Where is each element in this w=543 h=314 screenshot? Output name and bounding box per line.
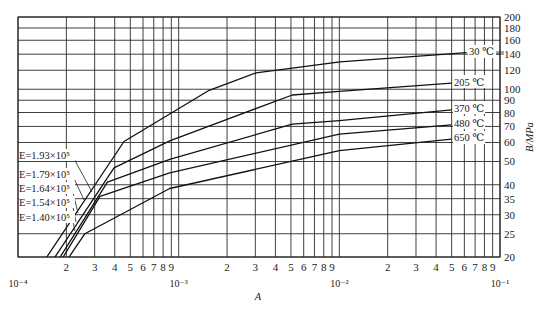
- x-minor-tick-label: 5: [128, 261, 134, 273]
- y-tick-label: 25: [504, 228, 516, 240]
- x-minor-tick-label: 6: [140, 261, 146, 273]
- creep-chart: 30 ℃ 205 ℃ 370 ℃ 480 ℃ 650 ℃ E=1.93×10⁵ …: [0, 0, 543, 314]
- x-minor-tick-label: 2: [224, 261, 230, 273]
- temp-label-650: 650 ℃: [454, 132, 484, 143]
- y-tick-label: 80: [504, 107, 516, 119]
- modulus-label-370: E=1.64×10⁵: [19, 183, 70, 194]
- temp-label-205: 205 ℃: [454, 77, 484, 88]
- x-minor-tick-label: 7: [312, 261, 318, 273]
- x-minor-tick-label: 6: [301, 261, 307, 273]
- x-minor-tick-label: 6: [462, 261, 468, 273]
- y-tick-label: 60: [504, 136, 516, 148]
- y-tick-label: 90: [504, 94, 516, 106]
- plot-grid: [18, 17, 500, 257]
- y-tick-label: 70: [504, 120, 516, 132]
- y-tick-labels: 20018016014012010090807060504035302520: [504, 11, 521, 263]
- y-tick-label: 40: [504, 179, 516, 191]
- y-tick-label: 120: [504, 64, 521, 76]
- x-minor-tick-label: 9: [329, 261, 335, 273]
- modulus-label-650: E=1.40×10⁵: [19, 212, 70, 223]
- modulus-label-30: E=1.93×10⁵: [19, 150, 70, 161]
- x-minor-tick-label: 4: [273, 261, 279, 273]
- x-minor-tick-label: 7: [472, 261, 478, 273]
- x-decade-label: 10⁻⁴: [9, 278, 28, 289]
- x-minor-tick-label: 3: [413, 261, 419, 273]
- x-minor-tick-label: 8: [321, 261, 327, 273]
- x-minor-tick-label: 5: [288, 261, 294, 273]
- x-decade-label: 10⁻³: [170, 278, 188, 289]
- y-tick-label: 30: [504, 209, 516, 221]
- x-minor-tick-label: 3: [253, 261, 259, 273]
- x-minor-tick-label: 8: [482, 261, 488, 273]
- x-decade-label: 10⁻¹: [491, 278, 509, 289]
- x-minor-tick-label: 8: [160, 261, 166, 273]
- y-tick-label: 140: [504, 48, 521, 60]
- curve-30c: [47, 53, 467, 257]
- x-tick-labels: 23456789234567892345678910⁻⁴10⁻³10⁻²10⁻¹: [9, 261, 510, 289]
- x-axis-title: A: [254, 291, 262, 302]
- x-decade-label: 10⁻²: [330, 278, 348, 289]
- y-tick-label: 35: [504, 193, 516, 205]
- x-minor-tick-label: 2: [385, 261, 391, 273]
- x-minor-tick-label: 3: [92, 261, 98, 273]
- x-minor-tick-label: 4: [112, 261, 118, 273]
- y-tick-label: 20: [504, 251, 516, 263]
- x-minor-tick-label: 7: [151, 261, 157, 273]
- modulus-label-205: E=1.79×10⁵: [19, 169, 70, 180]
- curve-650c: [69, 139, 452, 257]
- curves-group: [47, 53, 467, 257]
- temp-label-370: 370 ℃: [454, 103, 484, 114]
- temperature-labels: 30 ℃ 205 ℃ 370 ℃ 480 ℃ 650 ℃: [453, 45, 504, 144]
- x-minor-tick-label: 4: [433, 261, 439, 273]
- curve-370c: [60, 110, 451, 257]
- y-tick-label: 50: [504, 155, 516, 167]
- x-minor-tick-label: 9: [169, 261, 175, 273]
- y-tick-label: 180: [504, 22, 521, 34]
- temp-label-480: 480 ℃: [454, 118, 484, 129]
- x-minor-tick-label: 2: [64, 261, 70, 273]
- modulus-label-480: E=1.54×10⁵: [19, 197, 70, 208]
- y-tick-label: 160: [504, 34, 521, 46]
- x-minor-tick-label: 5: [449, 261, 455, 273]
- plot-frame: [18, 17, 500, 257]
- modulus-labels: E=1.93×10⁵ E=1.79×10⁵ E=1.64×10⁵ E=1.54×…: [19, 149, 75, 223]
- x-minor-tick-label: 9: [490, 261, 496, 273]
- y-axis-title: B/MPa: [524, 122, 535, 152]
- temp-label-30: 30 ℃: [469, 46, 494, 57]
